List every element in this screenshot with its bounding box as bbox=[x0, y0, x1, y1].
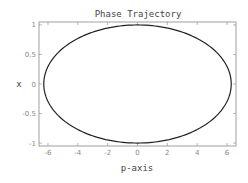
y-tick-label: -0.5 bbox=[22, 110, 36, 118]
x-tick-label: -2 bbox=[104, 149, 111, 157]
x-tick-label: 2 bbox=[165, 149, 169, 157]
y-tick-label: 0.5 bbox=[25, 51, 36, 59]
x-tick-label: 0 bbox=[135, 149, 139, 157]
plot-frame bbox=[39, 22, 236, 146]
x-axis-label: p-axis bbox=[121, 163, 154, 173]
x-tick-label: -4 bbox=[74, 149, 82, 157]
y-tick-label: 0 bbox=[32, 81, 36, 89]
y-axis-label: x bbox=[16, 79, 22, 89]
chart-title: Phase Trajectory bbox=[95, 9, 182, 19]
x-tick-label: -6 bbox=[44, 149, 52, 157]
trajectory-curve bbox=[44, 25, 231, 143]
x-tick-label: 6 bbox=[225, 149, 230, 157]
y-tick-label: -1 bbox=[29, 140, 36, 148]
phase-trajectory-chart: Phase Trajectory -1-0.500.51 -6-4-20246 … bbox=[0, 0, 248, 183]
y-axis-ticks: -1-0.500.51 bbox=[22, 21, 236, 147]
x-tick-label: 4 bbox=[195, 149, 200, 157]
y-tick-label: 1 bbox=[32, 21, 36, 29]
